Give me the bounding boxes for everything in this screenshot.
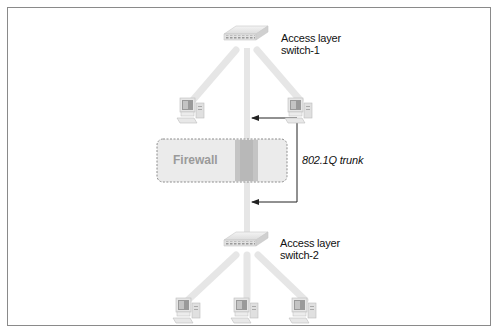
switch-2-label: Access layer switch-2 xyxy=(280,237,340,261)
trunk-label: 802.1Q trunk xyxy=(302,154,363,166)
firewall-label: Firewall xyxy=(173,153,218,167)
switch-1-label-line2: switch-1 xyxy=(281,44,341,56)
computers-bottom xyxy=(173,298,316,323)
switch-2-label-line1: Access layer xyxy=(280,237,340,249)
switch-1-icon[interactable] xyxy=(224,26,268,40)
network-diagram xyxy=(0,0,499,332)
computer-icon xyxy=(177,98,204,123)
computer-icon xyxy=(173,298,200,323)
switch-1-label: Access layer switch-1 xyxy=(281,32,341,56)
computer-icon xyxy=(231,298,258,323)
computer-icon xyxy=(289,298,316,323)
switch-2-label-line2: switch-2 xyxy=(280,249,340,261)
links-bottom xyxy=(188,255,305,300)
computer-icon xyxy=(285,98,312,123)
switch-2-icon[interactable] xyxy=(224,232,268,246)
switch-1-label-line1: Access layer xyxy=(281,32,341,44)
